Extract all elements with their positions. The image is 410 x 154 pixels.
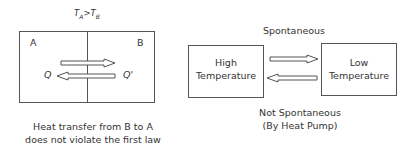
spontaneous-arrow-icon <box>269 55 319 63</box>
heat-pump-label: (By Heat Pump) <box>263 120 338 131</box>
region-a-label: A <box>30 37 37 48</box>
t-b-sub: B <box>96 13 100 20</box>
q-label: Q <box>44 69 51 80</box>
low-box-line-2: Temperature <box>329 70 389 81</box>
high-box-line-1: High <box>215 57 237 68</box>
caption-line-2: does not violate the first law <box>25 134 161 145</box>
not-spontaneous-label: Not Spontaneous <box>259 107 341 118</box>
system-divider <box>87 31 88 103</box>
caption-line-1: Heat transfer from B to A <box>33 121 153 132</box>
high-box-line-2: Temperature <box>196 70 256 81</box>
arrow-left-icon <box>56 72 116 80</box>
spontaneous-label: Spontaneous <box>263 25 325 36</box>
temperature-condition: TA>TB <box>74 8 100 20</box>
region-b-label: B <box>137 37 144 48</box>
low-box-line-1: Low <box>350 57 369 68</box>
heat-pump-arrow-icon <box>266 74 318 82</box>
arrow-right-icon <box>60 59 116 67</box>
q-prime-label: Q' <box>123 69 133 80</box>
